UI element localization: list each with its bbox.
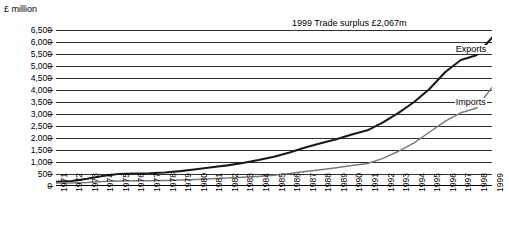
x-axis-tick-label: 1981 — [215, 173, 224, 192]
series-label-imports: Imports — [455, 98, 487, 107]
x-axis-tick-label: 1994 — [418, 173, 427, 192]
x-axis-tick-labels: 1971197219731974197519761977197819791980… — [0, 0, 509, 226]
series-label-exports: Exports — [455, 45, 488, 54]
x-axis-tick-label: 1971 — [60, 173, 69, 192]
x-axis-tick-label: 1972 — [75, 173, 84, 192]
x-axis-tick-label: 1996 — [449, 173, 458, 192]
x-axis-tick-label: 1990 — [355, 173, 364, 192]
x-axis-tick-label: 1989 — [340, 173, 349, 192]
x-axis-tick-label: 1997 — [464, 173, 473, 192]
x-axis-tick-label: 1987 — [309, 173, 318, 192]
x-axis-tick-label: 1974 — [106, 173, 115, 192]
x-axis-tick-label: 1993 — [402, 173, 411, 192]
x-axis-tick-label: 1992 — [387, 173, 396, 192]
x-axis-tick-label: 1979 — [184, 173, 193, 192]
x-axis-tick-label: 1977 — [153, 173, 162, 192]
x-axis-tick-label: 1986 — [293, 173, 302, 192]
x-axis-tick-label: 1988 — [324, 173, 333, 192]
x-axis-tick-label: 1976 — [137, 173, 146, 192]
trade-surplus-annotation: 1999 Trade surplus £2,067m — [290, 19, 409, 28]
x-axis-tick-label: 1980 — [200, 173, 209, 192]
x-axis-tick-label: 1978 — [169, 173, 178, 192]
trade-chart: £ million 05001,0001,5002,0002,5003,0003… — [0, 0, 509, 226]
x-axis-tick-label: 1999 — [496, 173, 505, 192]
x-axis-tick-label: 1984 — [262, 173, 271, 192]
x-axis-tick-label: 1998 — [480, 173, 489, 192]
x-axis-tick-label: 1995 — [433, 173, 442, 192]
x-axis-tick-label: 1973 — [91, 173, 100, 192]
x-axis-tick-label: 1982 — [231, 173, 240, 192]
x-axis-tick-label: 1975 — [122, 173, 131, 192]
x-axis-tick-label: 1983 — [246, 173, 255, 192]
x-axis-tick-label: 1985 — [278, 173, 287, 192]
x-axis-tick-label: 1991 — [371, 173, 380, 192]
